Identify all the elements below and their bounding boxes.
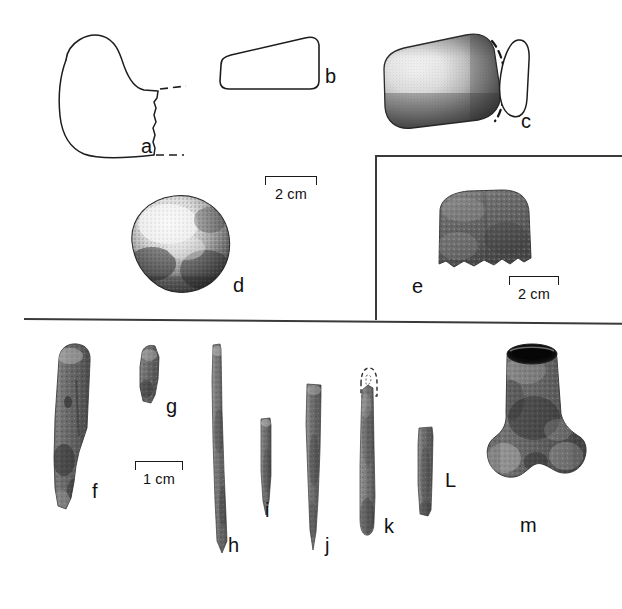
- inset-box-left-border: [375, 155, 377, 320]
- artifact-label-b: b: [325, 66, 336, 86]
- scale-bar-upper: 2 cm: [265, 176, 317, 202]
- artifact-k-photo: [352, 366, 386, 546]
- scale-bar-inset: 2 cm: [509, 276, 559, 302]
- artifact-j-photo: [300, 380, 332, 560]
- scale-bar-upper-rule: [265, 176, 317, 185]
- artifact-label-i: i: [265, 500, 269, 520]
- artifact-label-k: k: [384, 516, 394, 536]
- artifact-label-c: c: [521, 111, 531, 131]
- scale-bar-inset-label: 2 cm: [509, 286, 559, 302]
- artifact-d-photo: [122, 190, 240, 298]
- scale-bar-lower: 1 cm: [135, 461, 183, 487]
- artifact-e-photo: [428, 188, 540, 284]
- scale-bar-lower-label: 1 cm: [135, 471, 183, 487]
- artifact-label-e: e: [412, 276, 423, 296]
- artifact-label-f: f: [92, 481, 98, 501]
- artifact-label-g: g: [166, 396, 177, 416]
- artifact-label-h: h: [228, 535, 239, 555]
- artifact-a-drawing: [36, 24, 186, 164]
- artifact-label-a: a: [141, 136, 152, 156]
- artifact-L-photo: [412, 424, 440, 524]
- artifact-c-drawing: [378, 27, 538, 137]
- inset-box-top-border: [375, 155, 622, 157]
- artifact-plate-figure: a b: [0, 0, 622, 609]
- scale-bar-upper-label: 2 cm: [265, 186, 317, 202]
- artifact-h-photo: [205, 341, 237, 556]
- artifact-m-photo: [474, 340, 594, 512]
- artifact-label-m: m: [520, 515, 537, 535]
- scale-bar-lower-rule: [135, 461, 183, 470]
- artifact-label-L: L: [445, 470, 456, 490]
- artifact-label-d: d: [233, 275, 244, 295]
- artifact-b-drawing: [205, 33, 335, 103]
- scale-bar-inset-rule: [509, 276, 559, 285]
- artifact-label-j: j: [325, 535, 329, 555]
- panel-divider-line: [24, 318, 622, 324]
